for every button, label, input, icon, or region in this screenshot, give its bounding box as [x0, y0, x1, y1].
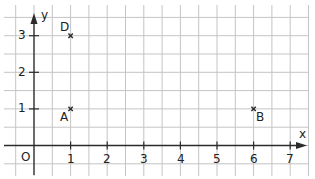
y-tick-label: 2 [18, 66, 26, 78]
y-axis-arrow-icon [31, 13, 38, 24]
x-tick-label: 4 [177, 153, 185, 165]
axis-ticks [29, 36, 290, 150]
grid-canvas [0, 0, 315, 179]
y-tick-label: 3 [18, 29, 26, 41]
x-tick-label: 2 [103, 153, 111, 165]
coordinate-diagram: x y O 1 2 3 4 5 6 7 1 2 3 A B D [0, 0, 315, 179]
x-tick-label: 3 [140, 153, 148, 165]
grid-lines [4, 5, 309, 176]
point-label-a: A [60, 111, 68, 123]
point-label-d: D [60, 21, 69, 33]
x-tick-label: 6 [250, 153, 258, 165]
x-tick-label: 7 [286, 153, 294, 165]
point-label-b: B [256, 111, 264, 123]
x-tick-label: 5 [213, 153, 221, 165]
x-tick-label: 1 [67, 153, 75, 165]
origin-label: O [21, 151, 30, 163]
axes [4, 13, 307, 175]
y-tick-label: 1 [18, 102, 26, 114]
y-axis-label: y [41, 9, 48, 21]
x-axis-label: x [299, 128, 306, 140]
x-axis-arrow-icon [296, 142, 307, 149]
